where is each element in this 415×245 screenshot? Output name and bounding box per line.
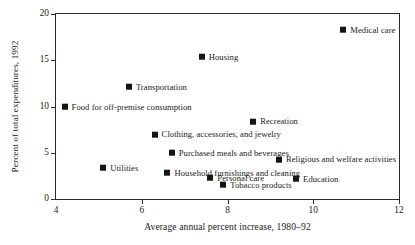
square-marker-icon (100, 165, 106, 171)
square-marker-icon (62, 104, 68, 110)
y-tick-mark (51, 14, 56, 15)
y-tick-mark (51, 107, 56, 108)
data-point-label: Housing (209, 52, 238, 61)
x-tick-mark (228, 199, 229, 204)
y-axis-title: Percent of total expenditures, 1992 (10, 14, 24, 199)
x-tick-label: 6 (139, 206, 144, 215)
data-point[interactable]: Clothing, accessories, and jewelry (152, 130, 281, 139)
x-tick-mark (313, 199, 314, 204)
data-point[interactable]: Transportation (126, 83, 187, 92)
data-point[interactable]: Medical care (340, 25, 395, 34)
square-marker-icon (199, 54, 205, 60)
y-tick-label: 20 (40, 9, 49, 18)
y-tick-label: 10 (40, 102, 49, 111)
data-point-label: Food for off-premise consumption (72, 102, 192, 111)
data-point[interactable]: Housing (199, 52, 238, 61)
data-point[interactable]: Purchased meals and beverages (169, 148, 289, 157)
data-point-label: Recreation (260, 117, 298, 126)
y-tick-mark (51, 60, 56, 61)
x-tick-label: 12 (394, 206, 403, 215)
plot-area: 05101520 4681012 Medical careHousingTran… (55, 13, 400, 200)
x-tick-label: 8 (225, 206, 230, 215)
data-point[interactable]: Tobacco products (220, 181, 292, 190)
square-marker-icon (207, 175, 213, 181)
x-tick-label: 10 (309, 206, 318, 215)
data-point-label: Tobacco products (230, 181, 292, 190)
data-point[interactable]: Utilities (100, 163, 138, 172)
x-axis-title: Average annual percent increase, 1980–92 (55, 221, 400, 232)
data-point-label: Religious and welfare activities (286, 155, 396, 164)
data-point[interactable]: Education (293, 174, 338, 183)
data-point-label: Medical care (350, 25, 395, 34)
data-point-label: Clothing, accessories, and jewelry (162, 130, 281, 139)
y-tick-mark (51, 153, 56, 154)
data-point[interactable]: Food for off-premise consumption (62, 102, 192, 111)
square-marker-icon (293, 176, 299, 182)
data-point[interactable]: Religious and welfare activities (276, 155, 396, 164)
square-marker-icon (152, 131, 158, 137)
data-point-label: Education (303, 174, 338, 183)
data-point-label: Utilities (110, 163, 138, 172)
square-marker-icon (126, 84, 132, 90)
square-marker-icon (164, 170, 170, 176)
scatter-chart-figure: Percent of total expenditures, 1992 Aver… (0, 0, 415, 245)
y-tick-label: 0 (44, 194, 49, 203)
square-marker-icon (276, 156, 282, 162)
data-point[interactable]: Recreation (250, 117, 298, 126)
data-point-label: Transportation (136, 83, 187, 92)
y-tick-label: 5 (44, 148, 49, 157)
y-tick-label: 15 (40, 56, 49, 65)
square-marker-icon (340, 27, 346, 33)
x-tick-label: 4 (54, 206, 59, 215)
x-tick-mark (399, 199, 400, 204)
data-point-label: Purchased meals and beverages (179, 148, 289, 157)
square-marker-icon (220, 182, 226, 188)
square-marker-icon (250, 118, 256, 124)
y-tick-mark (51, 199, 56, 200)
square-marker-icon (169, 150, 175, 156)
x-tick-mark (142, 199, 143, 204)
